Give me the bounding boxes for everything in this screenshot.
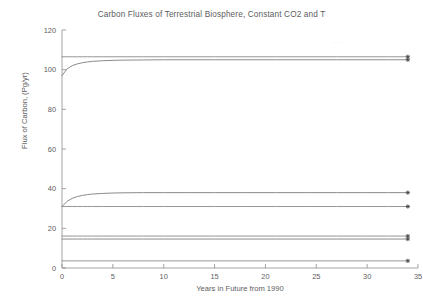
y-tick-label: 40 [48, 184, 56, 193]
data-series-group [62, 55, 410, 263]
x-tick-label: 10 [160, 272, 168, 281]
series-endpoint-marker [406, 259, 410, 263]
x-tick-label: 15 [210, 272, 218, 281]
chart-figure: Carbon Fluxes of Terrestrial Biosphere, … [0, 0, 423, 302]
series-endpoint-marker [406, 237, 410, 241]
y-tick-label: 60 [48, 145, 56, 154]
x-tick-label: 5 [111, 272, 115, 281]
axis-lines [62, 30, 418, 268]
y-tick-label: 80 [48, 105, 56, 114]
plot-area: 020406080100120 05101520253035 [0, 0, 423, 302]
y-tick-label: 120 [44, 26, 56, 35]
y-tick-label: 20 [48, 224, 56, 233]
series-endpoint-marker [406, 191, 410, 195]
x-tick-label: 25 [312, 272, 320, 281]
x-axis-ticks: 05101520253035 [60, 264, 422, 281]
series-line [62, 60, 408, 76]
y-tick-label: 100 [44, 65, 56, 74]
x-tick-label: 0 [60, 272, 64, 281]
x-tick-label: 20 [261, 272, 269, 281]
y-tick-label: 0 [52, 264, 56, 273]
series-endpoint-marker [406, 58, 410, 62]
series-line [62, 193, 408, 207]
x-tick-label: 30 [363, 272, 371, 281]
x-tick-label: 35 [414, 272, 422, 281]
series-endpoint-marker [406, 204, 410, 208]
